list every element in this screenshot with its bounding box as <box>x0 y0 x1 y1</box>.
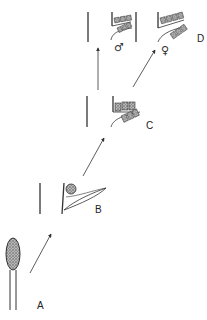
label-stage-d: D <box>197 34 204 44</box>
stage-d-male-figure <box>88 12 136 42</box>
label-stage-c: C <box>146 121 153 131</box>
arrow-b-to-c <box>83 138 104 176</box>
stage-d-female-figure <box>158 12 187 42</box>
label-stage-b: B <box>95 205 102 215</box>
female-symbol: ♀ <box>161 45 169 56</box>
arrow-a-to-b <box>30 234 51 273</box>
label-stage-a: A <box>37 301 44 311</box>
stage-a-figure <box>6 238 20 310</box>
male-symbol: ♂ <box>114 42 124 53</box>
diagram-canvas <box>0 0 207 320</box>
stage-c-figure <box>87 96 140 127</box>
arrow-c-to-d-female <box>133 50 155 87</box>
